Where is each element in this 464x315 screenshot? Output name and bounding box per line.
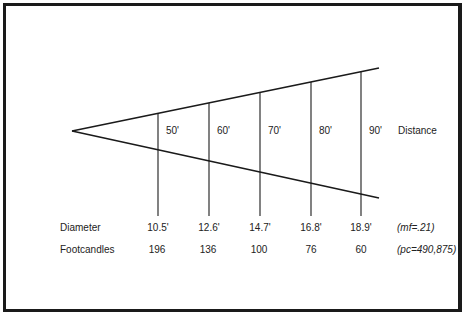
footcandles-heading: Footcandles <box>60 244 114 256</box>
beam-spread-diagram <box>0 0 464 315</box>
footcandles-value-90: 60 <box>355 244 366 256</box>
distance-label-60: 60' <box>217 125 230 137</box>
footcandles-value-60: 136 <box>200 244 217 256</box>
diameter-value-60: 12.6' <box>198 222 219 234</box>
distance-label-80: 80' <box>319 125 332 137</box>
distance-markers <box>158 72 361 216</box>
distance-label-90: 90' <box>369 125 382 137</box>
diameter-value-50: 10.5' <box>147 222 168 234</box>
multiplying-factor-note: (mf=.21) <box>397 222 435 234</box>
diameter-value-70: 14.7' <box>249 222 270 234</box>
distance-heading: Distance <box>398 125 437 137</box>
distance-label-70: 70' <box>268 125 281 137</box>
diameter-value-80: 16.8' <box>300 222 321 234</box>
diameter-value-90: 18.9' <box>350 222 371 234</box>
beam-lower-edge <box>72 131 379 198</box>
footcandles-value-80: 76 <box>305 244 316 256</box>
peak-candela-note: (pc=490,875) <box>397 244 456 256</box>
footcandles-value-50: 196 <box>149 244 166 256</box>
distance-label-50: 50' <box>166 125 179 137</box>
diameter-heading: Diameter <box>60 222 101 234</box>
footcandles-value-70: 100 <box>251 244 268 256</box>
beam-upper-edge <box>72 68 379 131</box>
